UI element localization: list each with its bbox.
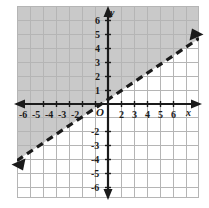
y-tick-label--6: -6	[91, 183, 99, 193]
x-tick-label-2: 2	[119, 110, 124, 120]
x-tick-label--4: -4	[45, 110, 53, 120]
y-tick-label-1: 1	[95, 86, 100, 96]
coordinate-plane-svg	[0, 0, 209, 208]
x-tick-label-3: 3	[132, 110, 137, 120]
graph-figure: -6 -5 -4 -3 -2 2 3 4 5 6 6 5 4 3 2 1 -2 …	[0, 0, 209, 208]
x-tick-label-5: 5	[158, 110, 163, 120]
y-tick-label-3: 3	[95, 58, 100, 68]
y-tick-label-6: 6	[95, 16, 100, 26]
y-tick-label-4: 4	[95, 44, 100, 54]
y-tick-label-5: 5	[95, 30, 100, 40]
x-tick-label-4: 4	[145, 110, 150, 120]
y-tick-label--3: -3	[91, 141, 99, 151]
x-axis-label: x	[186, 108, 191, 118]
x-tick-label--6: -6	[19, 110, 27, 120]
x-tick-label--2: -2	[71, 110, 79, 120]
y-tick-label--5: -5	[91, 169, 99, 179]
y-tick-label--4: -4	[91, 155, 99, 165]
x-tick-label--3: -3	[58, 110, 66, 120]
y-axis-label: y	[110, 8, 114, 18]
y-tick-label-2: 2	[95, 72, 100, 82]
y-tick-label--2: -2	[91, 127, 99, 137]
origin-label: O	[96, 107, 104, 118]
x-tick-label--5: -5	[32, 110, 40, 120]
x-tick-label-6: 6	[171, 110, 176, 120]
